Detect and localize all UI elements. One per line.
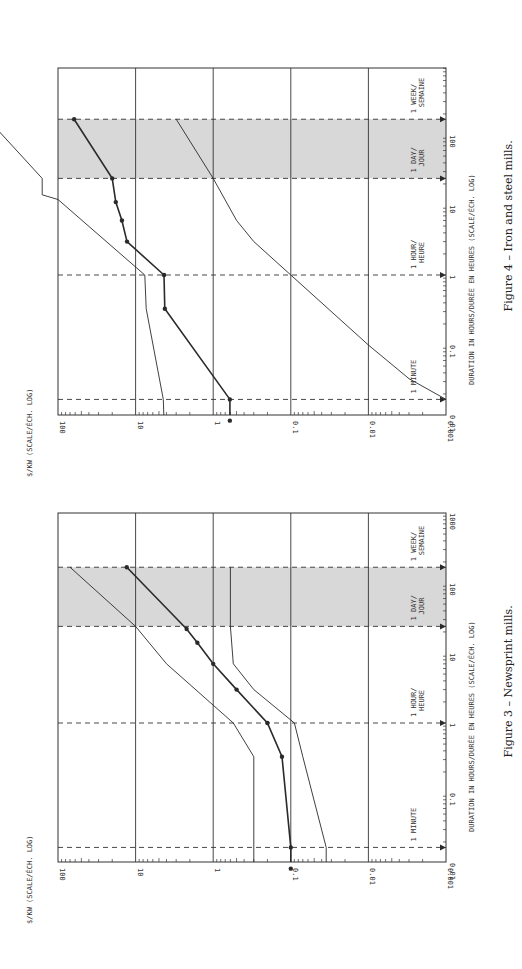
duration-marker-label: 1 WEEK/SEMAINE: [410, 526, 426, 562]
data-point-marker: [211, 662, 215, 666]
x-tick-label: 1: [448, 723, 456, 727]
y-tick-label: 0.1: [291, 421, 299, 434]
y-tick-label: 0.01: [368, 421, 376, 438]
data-point-marker: [125, 565, 129, 569]
y-tick-label: 0.01: [368, 868, 376, 885]
duration-marker-triangle-icon: [440, 272, 446, 278]
figure-4-iron-and-steel-mills: 1001010.10.010.0010.010.11101001 MINUTE1…: [0, 0, 522, 484]
data-point-marker: [163, 307, 167, 311]
figure-caption: Figure 3 – Newsprint mills.: [502, 605, 515, 757]
data-point-marker: [195, 641, 199, 645]
data-point-marker: [110, 176, 114, 180]
x-tick-label: 1000: [448, 513, 456, 530]
data-point-marker: [265, 721, 269, 725]
shaded-region-day-to-week: [58, 567, 446, 626]
data-point-marker: [162, 273, 166, 277]
x-tick-label: 0.1: [448, 793, 456, 806]
figure-caption: Figure 4 – Iron and steel mills.: [502, 140, 515, 311]
chart-figure-4: 1001010.10.010.0010.010.11101001 MINUTE1…: [0, 0, 522, 484]
data-point-marker: [228, 397, 232, 401]
data-point-marker: [289, 866, 293, 870]
figure-3-newsprint-mills: 1001010.10.010.0010.010.111010010001 MIN…: [0, 484, 522, 969]
duration-marker-label: 1 MINUTE: [410, 808, 418, 842]
x-tick-label: 10: [448, 653, 456, 661]
x-tick-label: 1: [448, 275, 456, 279]
y-tick-label: 10: [136, 421, 144, 429]
duration-marker-label: 1 WEEK/SEMAINE: [410, 78, 426, 114]
data-point-marker: [184, 627, 188, 631]
x-tick-label: 100: [448, 583, 456, 596]
y-tick-label: 1: [213, 868, 221, 872]
y-tick-label: 100: [58, 421, 66, 434]
data-point-marker: [120, 218, 124, 222]
shaded-region-day-to-week: [58, 119, 446, 178]
data-point-marker: [125, 239, 129, 243]
duration-marker-label: 1 HOUR/HEURE: [410, 239, 426, 269]
x-axis-title: DURATION IN HOURS/DURÉE EN HEURES (SCALE…: [467, 621, 476, 832]
x-axis-title: DURATION IN HOURS/DURÉE EN HEURES (SCALE…: [467, 174, 476, 385]
x-tick-label: 10: [448, 205, 456, 213]
y-axis-title: $/KW (SCALE/ÉCH. LOG): [25, 388, 34, 477]
y-tick-label: 1: [213, 421, 221, 425]
duration-marker-triangle-icon: [440, 720, 446, 726]
x-tick-label: 0.1: [448, 345, 456, 358]
x-tick-label: 0.01: [448, 415, 456, 432]
duration-marker-triangle-icon: [440, 844, 446, 850]
data-point-marker: [72, 117, 76, 121]
x-tick-label: 100: [448, 135, 456, 148]
data-point-marker: [280, 755, 284, 759]
data-point-marker: [289, 845, 293, 849]
duration-marker-label: 1 MINUTE: [410, 360, 418, 394]
y-tick-label: 100: [58, 868, 66, 881]
duration-marker-label: 1 HOUR/HEURE: [410, 687, 426, 717]
x-tick-label: 0.01: [448, 863, 456, 880]
y-axis-title: $/KW (SCALE/ÉCH. LOG): [25, 835, 34, 924]
chart-figure-3: 1001010.10.010.0010.010.111010010001 MIN…: [0, 484, 522, 969]
data-point-marker: [114, 200, 118, 204]
data-point-marker: [234, 687, 238, 691]
y-tick-label: 10: [136, 868, 144, 876]
data-point-marker: [228, 418, 232, 422]
